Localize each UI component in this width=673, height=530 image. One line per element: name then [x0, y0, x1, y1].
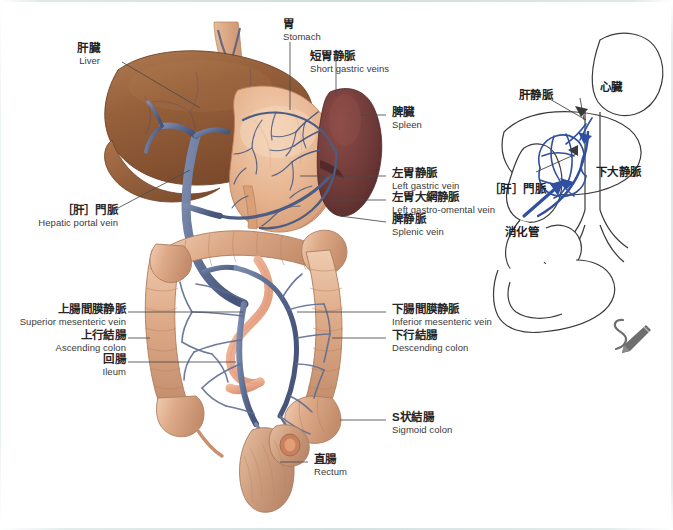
label-inferior-mesenteric-vein: 下腸間膜静脈 Inferior mesenteric vein [392, 303, 492, 328]
label-spleen-jp: 脾臓 [392, 106, 422, 119]
label-inferior-mesenteric-vein-jp: 下腸間膜静脈 [392, 303, 492, 316]
label-stomach: 胃 Stomach [283, 18, 321, 43]
label-hepatic-portal-vein-jp: ［肝］門脈 [10, 204, 118, 217]
rectum-organ [240, 425, 310, 512]
label-left-gastric-vein-jp: 左胃静脈 [392, 167, 459, 180]
label-portal-vein: ［肝］門脈 [489, 180, 546, 196]
label-left-gastro-omental-vein: 左胃大網静脈 Left gastro-omental vein [392, 191, 495, 216]
label-ileum: 回腸 Ileum [8, 353, 126, 378]
label-descending-colon-en: Descending colon [392, 343, 468, 354]
label-heart: 心臓 [600, 78, 623, 94]
label-hepatic-vein: 肝静脈 [519, 86, 553, 102]
label-splenic-vein-en: Splenic vein [392, 227, 444, 238]
label-superior-mesenteric-vein-en: Superior mesenteric vein [8, 317, 126, 328]
label-sigmoid-colon-en: Sigmoid colon [392, 425, 452, 436]
label-spleen: 脾臓 Spleen [392, 106, 422, 131]
label-liver-en: Liver [40, 56, 100, 67]
label-left-gastric-vein-en: Left gastric vein [392, 181, 459, 192]
label-hepatic-portal-vein-en: Hepatic portal vein [10, 218, 118, 229]
diagram-page: 肝臓 Liver 胃 Stomach 短胃静脈 Short gastric ve… [0, 0, 673, 530]
label-descending-colon: 下行結腸 Descending colon [392, 329, 468, 354]
label-inferior-mesenteric-vein-en: Inferior mesenteric vein [392, 317, 492, 328]
label-ascending-colon: 上行結腸 Ascending colon [8, 329, 126, 354]
label-hepatic-portal-vein: ［肝］門脈 Hepatic portal vein [10, 204, 118, 229]
label-rectum-jp: 直腸 [314, 453, 347, 466]
label-descending-colon-jp: 下行結腸 [392, 329, 468, 342]
label-superior-mesenteric-vein: 上腸間膜静脈 Superior mesenteric vein [8, 303, 126, 328]
large-intestine [145, 230, 347, 456]
label-inferior-vena-cava: 下大静脈 [596, 163, 642, 179]
label-superior-mesenteric-vein-jp: 上腸間膜静脈 [8, 303, 126, 316]
label-splenic-vein-jp: 脾静脈 [392, 213, 444, 226]
label-liver-jp: 肝臓 [40, 42, 100, 55]
label-digestive-tract: 消化管 [505, 223, 539, 239]
label-short-gastric-veins: 短胃静脈 Short gastric veins [310, 50, 389, 75]
label-short-gastric-veins-jp: 短胃静脈 [310, 50, 389, 63]
label-ascending-colon-jp: 上行結腸 [8, 329, 126, 342]
label-stomach-jp: 胃 [283, 18, 321, 31]
label-ascending-colon-en: Ascending colon [8, 343, 126, 354]
pencil-icon[interactable] [608, 316, 654, 360]
label-left-gastro-omental-vein-jp: 左胃大網静脈 [392, 191, 495, 204]
label-ileum-jp: 回腸 [8, 353, 126, 366]
label-rectum: 直腸 Rectum [314, 453, 347, 478]
label-left-gastric-vein: 左胃静脈 Left gastric vein [392, 167, 459, 192]
label-rectum-en: Rectum [314, 467, 347, 478]
label-sigmoid-colon-jp: S状結腸 [392, 411, 452, 424]
label-sigmoid-colon: S状結腸 Sigmoid colon [392, 411, 452, 436]
label-liver: 肝臓 Liver [40, 42, 100, 67]
spleen-organ [317, 89, 382, 217]
label-ileum-en: Ileum [8, 367, 126, 378]
label-short-gastric-veins-en: Short gastric veins [310, 64, 389, 75]
label-splenic-vein: 脾静脈 Splenic vein [392, 213, 444, 238]
label-stomach-en: Stomach [283, 32, 321, 43]
label-spleen-en: Spleen [392, 120, 422, 131]
